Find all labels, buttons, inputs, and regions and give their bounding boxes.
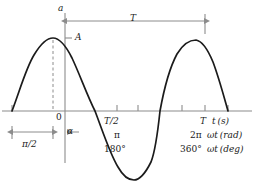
full-period-time-label: T <box>200 117 206 126</box>
quarter-period-label: π/2 <box>22 140 37 149</box>
waveform-plot <box>0 0 262 195</box>
rad-unit-label: ωt (rad) <box>207 131 242 140</box>
full-period-rad-label: 2π <box>190 131 202 140</box>
alpha-label: α <box>67 127 73 136</box>
waveform-figure: a A T 0 π/2 α T/2 π 180° T 2π 360° t (s)… <box>0 0 262 195</box>
half-period-time-label: T/2 <box>104 117 119 126</box>
half-period-deg-label: 180° <box>104 145 126 154</box>
half-period-rad-label: π <box>114 131 120 140</box>
amplitude-label: A <box>75 33 82 42</box>
deg-unit-label: ωt (deg) <box>207 145 244 154</box>
sine-curve <box>12 38 228 180</box>
time-unit-label: t (s) <box>212 117 229 126</box>
y-axis-label: a <box>58 4 63 13</box>
full-period-deg-label: 360° <box>180 145 202 154</box>
period-label: T <box>130 14 136 23</box>
origin-label: 0 <box>56 113 62 122</box>
x-axis-ticks <box>12 105 228 111</box>
